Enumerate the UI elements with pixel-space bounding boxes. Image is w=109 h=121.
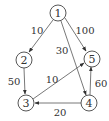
svg-text:2: 2 bbox=[21, 54, 28, 67]
edge-label-1-2: 10 bbox=[31, 25, 44, 36]
svg-text:3: 3 bbox=[23, 97, 30, 110]
edge-3-5 bbox=[33, 63, 84, 99]
node-1: 1 bbox=[50, 5, 66, 21]
edge-label-3-5: 10 bbox=[46, 74, 59, 85]
edge-4-5 bbox=[90, 67, 91, 95]
edge-label-4-3: 20 bbox=[54, 107, 67, 118]
svg-text:1: 1 bbox=[55, 7, 62, 20]
edge-label-1-5: 100 bbox=[75, 25, 94, 36]
edge-label-4-5: 60 bbox=[95, 78, 108, 89]
node-2: 2 bbox=[16, 52, 32, 68]
graph-diagram: 10 30 100 50 10 20 60 1 2 3 4 5 bbox=[0, 0, 109, 121]
node-5: 5 bbox=[84, 51, 100, 67]
node-3: 3 bbox=[18, 95, 34, 111]
svg-text:4: 4 bbox=[86, 97, 93, 110]
svg-text:5: 5 bbox=[89, 53, 96, 66]
edge-2-3 bbox=[24, 68, 25, 94]
node-4: 4 bbox=[81, 95, 97, 111]
edge-label-1-4: 30 bbox=[56, 45, 69, 56]
edge-label-2-3: 50 bbox=[8, 76, 21, 87]
